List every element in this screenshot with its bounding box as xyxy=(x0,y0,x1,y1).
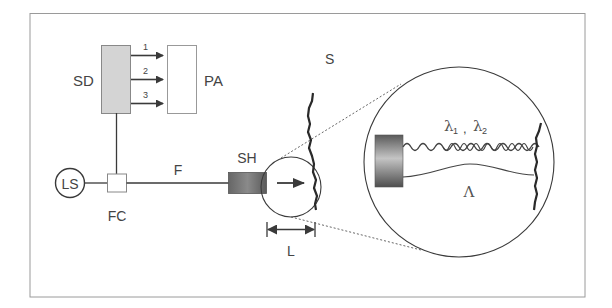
fc-box xyxy=(108,174,127,192)
sh-label: SH xyxy=(237,150,256,166)
f-label: F xyxy=(174,162,183,178)
s-label: S xyxy=(325,51,334,67)
big-lambda-label: Λ xyxy=(463,183,475,201)
channel-2-label: 2 xyxy=(143,66,148,76)
pa-box xyxy=(168,46,197,114)
diagram-canvas: SD 1 2 3 PA LS FC F SH S xyxy=(0,0,612,308)
sd-box xyxy=(102,46,131,114)
channel-1-label: 1 xyxy=(143,42,148,52)
lambda-1-subscript: 1 xyxy=(453,126,458,136)
sd-label: SD xyxy=(73,72,94,89)
l-label: L xyxy=(287,243,295,259)
fc-label: FC xyxy=(108,208,127,224)
channel-3-label: 3 xyxy=(143,90,148,100)
lambda-2-subscript: 2 xyxy=(482,126,487,136)
inset-sensor-block xyxy=(375,135,403,187)
lambda-separator: , xyxy=(463,121,467,136)
pa-label: PA xyxy=(204,72,223,89)
ls-source: LS xyxy=(56,169,85,198)
ls-label: LS xyxy=(61,176,78,192)
